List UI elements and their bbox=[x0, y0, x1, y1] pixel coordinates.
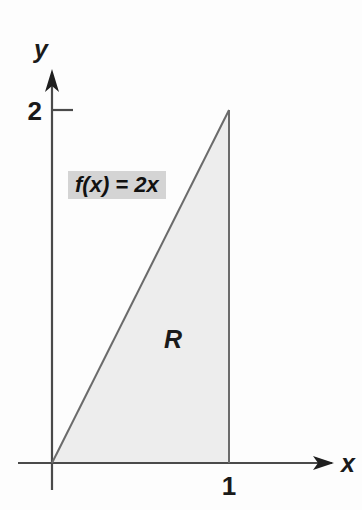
y-tick-label-2: 2 bbox=[28, 96, 42, 126]
graph-svg: y x 2 1 R f(x) = 2x bbox=[0, 0, 362, 510]
x-axis-label: x bbox=[339, 449, 356, 477]
y-axis-label: y bbox=[32, 35, 49, 63]
function-label: f(x) = 2x bbox=[75, 172, 160, 197]
figure-canvas: y x 2 1 R f(x) = 2x bbox=[0, 0, 362, 510]
region-label-R: R bbox=[164, 325, 182, 353]
x-tick-label-1: 1 bbox=[222, 471, 236, 501]
